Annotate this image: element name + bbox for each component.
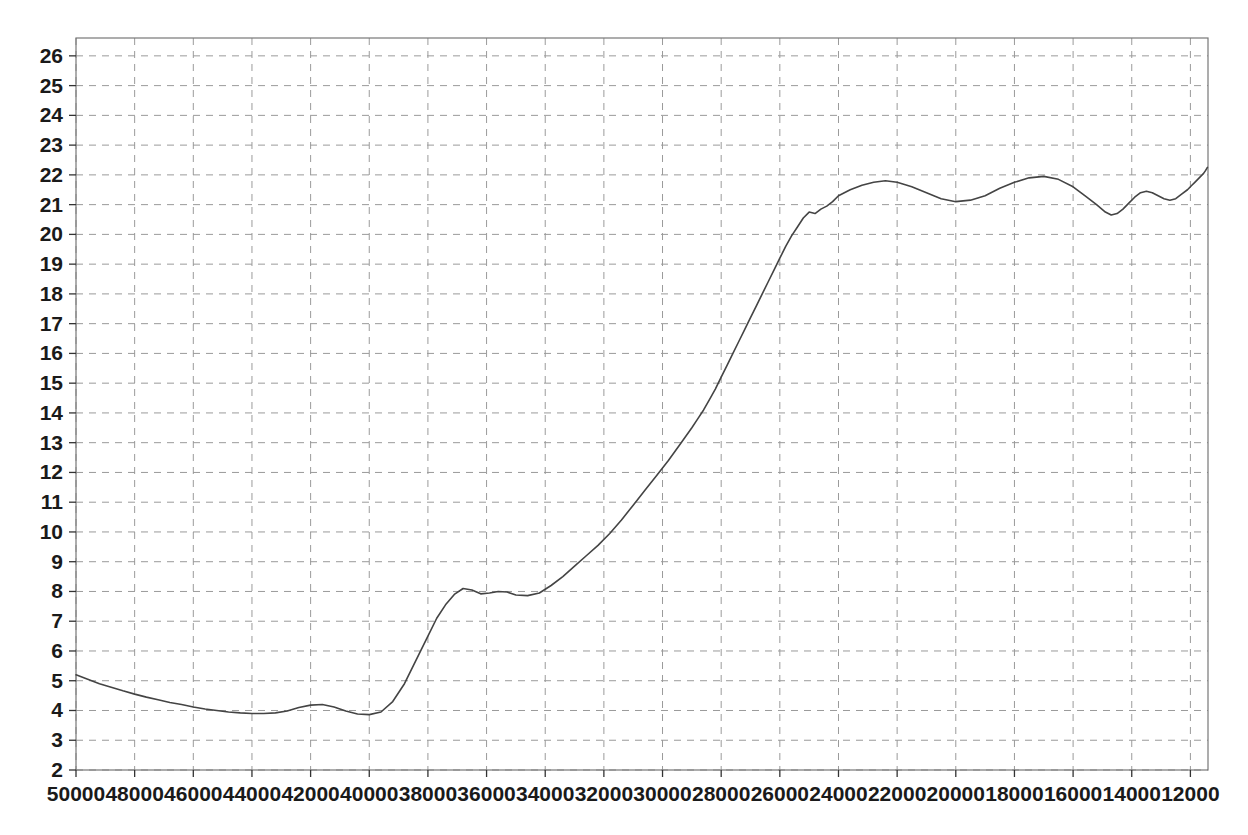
y-axis-tick-label: 2	[51, 758, 63, 781]
x-axis-tick-label: 22000	[868, 782, 926, 805]
x-axis-tick-label: 48000	[105, 782, 163, 805]
x-axis-tick-labels: 5000048000460004400042000400003800036000…	[47, 782, 1220, 805]
x-axis-tick-label: 24000	[809, 782, 867, 805]
y-axis-tick-label: 21	[40, 193, 64, 216]
y-axis-tick-label: 25	[40, 74, 64, 97]
y-axis-tick-label: 3	[51, 728, 63, 751]
y-axis-tick-label: 13	[40, 431, 63, 454]
x-axis-tick-label: 12000	[1161, 782, 1219, 805]
x-axis-tick-label: 16000	[1044, 782, 1102, 805]
x-axis-tick-label: 14000	[1103, 782, 1161, 805]
y-axis-tick-label: 17	[40, 312, 63, 335]
y-axis-tick-label: 18	[40, 282, 64, 305]
chart-container: 2345678910111213141516171819202122232425…	[0, 0, 1248, 835]
y-axis-tick-label: 20	[40, 222, 63, 245]
y-axis-tick-label: 5	[51, 669, 63, 692]
y-axis-tick-label: 22	[40, 163, 63, 186]
x-axis-tick-label: 50000	[47, 782, 105, 805]
y-axis-tick-label: 19	[40, 252, 63, 275]
y-axis-tick-label: 8	[51, 579, 63, 602]
y-axis-tick-label: 6	[51, 639, 63, 662]
x-axis-tick-label: 36000	[457, 782, 515, 805]
y-axis-tick-label: 26	[40, 44, 63, 67]
x-axis-tick-label: 28000	[692, 782, 750, 805]
y-axis-tick-label: 24	[40, 103, 64, 126]
x-axis-tick-label: 38000	[399, 782, 457, 805]
y-axis-tick-label: 23	[40, 133, 63, 156]
x-axis-tick-label: 26000	[751, 782, 809, 805]
x-axis-tick-label: 46000	[164, 782, 222, 805]
y-axis-tick-label: 15	[40, 371, 64, 394]
line-chart: 2345678910111213141516171819202122232425…	[0, 0, 1248, 835]
y-axis-tick-label: 14	[40, 401, 64, 424]
y-axis-tick-label: 11	[41, 490, 64, 513]
y-axis-tick-label: 9	[51, 550, 63, 573]
y-axis-tick-label: 16	[40, 341, 63, 364]
x-axis-tick-label: 44000	[223, 782, 281, 805]
x-axis-tick-label: 42000	[281, 782, 339, 805]
x-axis-tick-label: 32000	[575, 782, 633, 805]
y-axis-tick-label: 4	[51, 698, 63, 721]
chart-background	[0, 0, 1248, 835]
x-axis-tick-label: 30000	[633, 782, 691, 805]
y-axis-tick-label: 10	[40, 520, 63, 543]
y-axis-tick-label: 7	[51, 609, 63, 632]
x-axis-tick-label: 18000	[985, 782, 1043, 805]
x-axis-tick-label: 40000	[340, 782, 398, 805]
x-axis-tick-label: 34000	[516, 782, 574, 805]
x-axis-tick-label: 20000	[927, 782, 985, 805]
y-axis-tick-label: 12	[40, 460, 63, 483]
